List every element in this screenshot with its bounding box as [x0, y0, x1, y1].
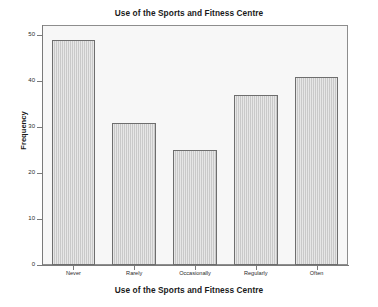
y-axis-tick: [37, 35, 42, 36]
x-axis-tick-label: Regularly: [225, 270, 286, 276]
y-axis-tick-label: 10: [18, 215, 35, 221]
bar: [234, 95, 278, 265]
y-axis-tick: [37, 81, 42, 82]
y-axis-line: [42, 25, 43, 266]
plot-area: [43, 26, 347, 265]
y-axis-tick-label: 40: [18, 77, 35, 83]
x-axis-title: Use of the Sports and Fitness Centre: [0, 285, 378, 295]
x-axis-tick-label: Often: [286, 270, 347, 276]
bar: [173, 150, 217, 265]
y-axis-title: Frequency: [19, 91, 28, 171]
y-axis-tick-label: 0: [18, 261, 35, 267]
y-axis-tick: [37, 219, 42, 220]
x-axis-tick-label: Occasionally: [165, 270, 226, 276]
y-axis-tick-label: 50: [18, 31, 35, 37]
bar: [52, 40, 96, 265]
bar: [112, 123, 156, 265]
x-axis-tick-label: Never: [43, 270, 104, 276]
chart-title: Use of the Sports and Fitness Centre: [0, 8, 378, 18]
y-axis-tick: [37, 173, 42, 174]
x-axis-tick-label: Rarely: [104, 270, 165, 276]
bar-chart: Use of the Sports and Fitness Centre 010…: [0, 0, 378, 307]
bar: [295, 77, 339, 265]
y-axis-tick: [37, 127, 42, 128]
